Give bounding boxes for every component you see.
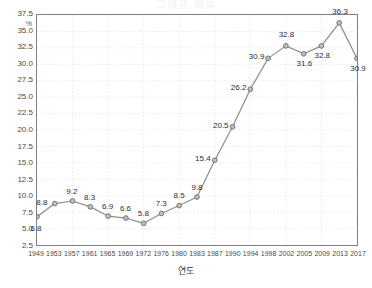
y-axis-unit-label: % bbox=[26, 20, 32, 27]
data-point-marker bbox=[195, 195, 200, 200]
data-point-label: 9.8 bbox=[191, 184, 202, 192]
data-point-label: 30.9 bbox=[350, 65, 366, 73]
y-tick-label: 30.0 bbox=[17, 60, 33, 68]
data-point-marker bbox=[301, 51, 306, 56]
data-point-label: 7.3 bbox=[156, 200, 167, 208]
data-point-label: 32.8 bbox=[314, 52, 330, 60]
x-axis: 1949195319571961196519691972197619801983… bbox=[36, 249, 358, 261]
x-tick-label: 1965 bbox=[100, 249, 116, 258]
data-point-marker bbox=[319, 44, 324, 49]
data-point-marker bbox=[52, 201, 57, 206]
x-tick-label: 1983 bbox=[189, 249, 205, 258]
data-point-label: 8.5 bbox=[174, 192, 185, 200]
x-tick-label: 1961 bbox=[82, 249, 98, 258]
x-tick-label: 1957 bbox=[64, 249, 80, 258]
data-point-label: 36.3 bbox=[332, 8, 348, 16]
x-tick-label: 1972 bbox=[136, 249, 152, 258]
y-tick-label: 20.0 bbox=[17, 126, 33, 134]
data-point-marker bbox=[337, 21, 342, 26]
data-point-marker bbox=[212, 158, 217, 163]
data-point-marker bbox=[88, 205, 93, 210]
x-tick-label: 1998 bbox=[261, 249, 277, 258]
x-tick-label: 1949 bbox=[28, 249, 44, 258]
x-tick-label: 2002 bbox=[279, 249, 295, 258]
data-point-label: 31.6 bbox=[297, 60, 313, 68]
data-point-label: 8.3 bbox=[84, 194, 95, 202]
data-point-label: 20.5 bbox=[213, 122, 229, 130]
x-tick-label: 1953 bbox=[46, 249, 62, 258]
data-point-label: 9.2 bbox=[66, 188, 77, 196]
x-tick-label: 1976 bbox=[153, 249, 169, 258]
y-tick-label: 27.5 bbox=[17, 76, 33, 84]
y-tick-label: 25.0 bbox=[17, 93, 33, 101]
x-tick-label: 2005 bbox=[297, 249, 313, 258]
data-point-label: 32.8 bbox=[279, 31, 295, 39]
data-point-marker bbox=[37, 214, 39, 219]
line-chart-figure: 2.55.07.510.012.515.017.520.022.525.027.… bbox=[0, 0, 372, 288]
x-tick-label: 1987 bbox=[207, 249, 223, 258]
y-tick-label: 22.5 bbox=[17, 109, 33, 117]
data-point-marker bbox=[106, 214, 111, 219]
data-point-marker bbox=[266, 56, 271, 61]
data-point-label: 6.9 bbox=[102, 203, 113, 211]
data-point-label: 5.8 bbox=[138, 210, 149, 218]
y-tick-label: 37.5 bbox=[17, 10, 33, 18]
data-point-label: 15.4 bbox=[195, 155, 211, 163]
x-tick-label: 2009 bbox=[314, 249, 330, 258]
x-tick-label: 2013 bbox=[332, 249, 348, 258]
y-tick-label: 7.5 bbox=[22, 209, 33, 217]
plot-area bbox=[36, 14, 358, 246]
x-tick-label: 2017 bbox=[350, 249, 366, 258]
data-point-label: 30.9 bbox=[249, 53, 265, 61]
data-point-marker bbox=[355, 56, 357, 61]
data-point-marker bbox=[177, 203, 182, 208]
y-tick-label: 10.0 bbox=[17, 192, 33, 200]
data-point-marker bbox=[141, 221, 146, 226]
x-tick-label: 1969 bbox=[118, 249, 134, 258]
data-point-marker bbox=[230, 124, 235, 129]
data-point-marker bbox=[248, 87, 253, 92]
x-tick-label: 1980 bbox=[171, 249, 187, 258]
data-point-marker bbox=[159, 211, 164, 216]
data-point-label: 6.6 bbox=[120, 205, 131, 213]
data-point-marker bbox=[283, 44, 288, 49]
data-point-label: 6.8 bbox=[30, 225, 41, 233]
chart-plot-svg bbox=[37, 15, 357, 245]
y-tick-label: 17.5 bbox=[17, 143, 33, 151]
y-tick-label: 35.0 bbox=[17, 27, 33, 35]
y-tick-label: 32.5 bbox=[17, 43, 33, 51]
data-point-label: 26.2 bbox=[231, 84, 247, 92]
y-axis: 2.55.07.510.012.515.017.520.022.525.027.… bbox=[0, 14, 36, 246]
data-point-marker bbox=[123, 216, 128, 221]
y-tick-label: 15.0 bbox=[17, 159, 33, 167]
data-point-marker bbox=[70, 199, 75, 204]
y-tick-label: 12.5 bbox=[17, 176, 33, 184]
data-point-label: 8.8 bbox=[36, 199, 47, 207]
x-axis-title: 연도 bbox=[0, 266, 372, 277]
x-tick-label: 1990 bbox=[225, 249, 241, 258]
x-tick-label: 1994 bbox=[243, 249, 259, 258]
